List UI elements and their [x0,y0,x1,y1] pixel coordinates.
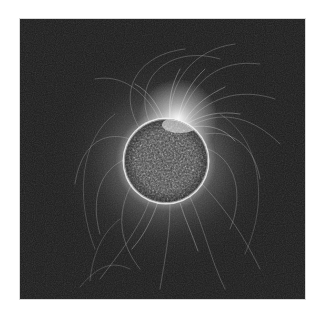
corona-rendering [20,19,305,299]
solar-disk [123,117,210,205]
corona-image [20,19,305,299]
